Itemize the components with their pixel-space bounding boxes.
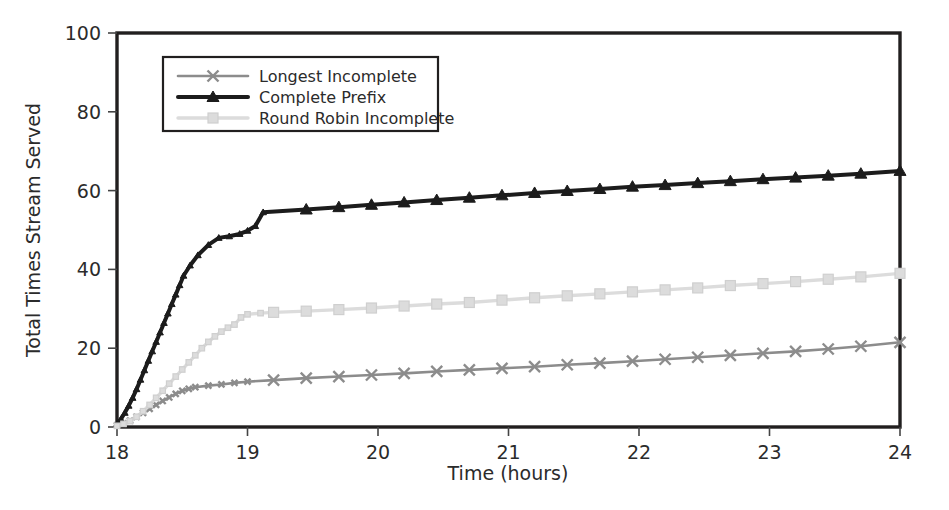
chart-figure: 020406080100 18192021222324 Time (hours)… bbox=[0, 0, 949, 510]
data-point-marker bbox=[114, 423, 120, 429]
y-tick-label: 0 bbox=[89, 416, 101, 438]
data-point-marker bbox=[301, 306, 311, 316]
data-point-marker bbox=[660, 285, 670, 295]
data-point-marker bbox=[258, 310, 264, 316]
data-point-marker bbox=[153, 395, 159, 401]
data-point-marker bbox=[199, 345, 205, 351]
x-tick-label: 18 bbox=[105, 441, 129, 463]
x-tick-label: 23 bbox=[757, 441, 781, 463]
data-point-marker bbox=[366, 303, 376, 313]
data-point-marker bbox=[334, 305, 344, 315]
legend-label: Complete Prefix bbox=[259, 88, 386, 107]
y-tick-label: 20 bbox=[77, 337, 101, 359]
data-point-marker bbox=[134, 414, 140, 420]
data-point-marker bbox=[693, 283, 703, 293]
data-point-marker bbox=[208, 113, 218, 123]
legend-label: Longest Incomplete bbox=[259, 67, 417, 86]
data-point-marker bbox=[562, 291, 572, 301]
data-point-marker bbox=[464, 297, 474, 307]
data-point-marker bbox=[269, 307, 279, 317]
data-point-marker bbox=[758, 279, 768, 289]
data-point-marker bbox=[193, 353, 199, 359]
y-axis-title: Total Times Stream Served bbox=[22, 103, 44, 358]
data-point-marker bbox=[595, 289, 605, 299]
data-point-marker bbox=[530, 293, 540, 303]
data-point-marker bbox=[173, 374, 179, 380]
data-point-marker bbox=[212, 334, 218, 340]
data-point-marker bbox=[166, 381, 172, 387]
data-point-marker bbox=[627, 287, 637, 297]
y-tick-label: 80 bbox=[77, 101, 101, 123]
data-point-marker bbox=[725, 281, 735, 291]
y-tick-label: 40 bbox=[77, 258, 101, 280]
data-point-marker bbox=[147, 402, 153, 408]
x-tick-label: 21 bbox=[496, 441, 520, 463]
data-point-marker bbox=[206, 339, 212, 345]
line-chart-canvas: 020406080100 18192021222324 Time (hours)… bbox=[0, 0, 949, 510]
x-tick-label: 24 bbox=[888, 441, 912, 463]
data-point-marker bbox=[497, 295, 507, 305]
data-point-marker bbox=[895, 268, 905, 278]
x-tick-label: 19 bbox=[235, 441, 259, 463]
data-point-marker bbox=[399, 301, 409, 311]
data-point-marker bbox=[160, 388, 166, 394]
data-point-marker bbox=[180, 367, 186, 373]
y-tick-label: 100 bbox=[65, 22, 101, 44]
data-point-marker bbox=[232, 322, 238, 328]
data-point-marker bbox=[856, 272, 866, 282]
data-point-marker bbox=[127, 418, 133, 424]
data-point-marker bbox=[225, 325, 231, 331]
data-point-marker bbox=[186, 360, 192, 366]
x-tick-label: 20 bbox=[366, 441, 390, 463]
y-tick-label: 60 bbox=[77, 180, 101, 202]
data-point-marker bbox=[238, 315, 244, 321]
legend: Longest IncompleteComplete PrefixRound R… bbox=[163, 57, 454, 131]
data-point-marker bbox=[140, 408, 146, 414]
data-point-marker bbox=[791, 277, 801, 287]
data-point-marker bbox=[432, 299, 442, 309]
x-tick-label: 22 bbox=[627, 441, 651, 463]
x-axis-title: Time (hours) bbox=[447, 462, 569, 484]
data-point-marker bbox=[219, 329, 225, 335]
data-point-marker bbox=[245, 312, 251, 318]
data-point-marker bbox=[823, 274, 833, 284]
data-point-marker bbox=[121, 421, 127, 427]
figure-background bbox=[0, 0, 949, 510]
legend-label: Round Robin Incomplete bbox=[259, 109, 454, 128]
